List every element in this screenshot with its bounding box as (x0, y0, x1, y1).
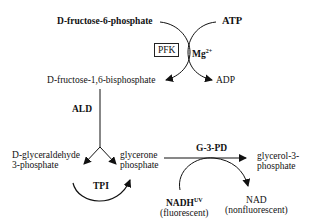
fructose-bisphosphate-label: D-fructose-1,6-bisphosphate (47, 75, 155, 85)
pathway-arrows (0, 0, 318, 224)
atp-label: ATP (222, 16, 242, 26)
glyceraldehyde-3-phosphate-label: D-glyceraldehyde3-phosphate (12, 150, 80, 170)
nad-label: NAD(nonfluorescent) (225, 195, 288, 215)
tpi-enzyme-label: TPI (93, 181, 109, 191)
ald-enzyme-label: ALD (72, 104, 92, 114)
glycerone-phosphate-label: glyceronephosphate (120, 150, 159, 170)
g3pd-enzyme-label: G-3-PD (196, 143, 227, 153)
adp-label: ADP (216, 75, 235, 85)
fructose-6-phosphate-label: D-fructose-6-phosphate (57, 16, 153, 26)
nadh-label: NADHUV(fluorescent) (160, 195, 209, 218)
mg-cofactor-label: Mg2+ (192, 46, 212, 59)
glycerol-3-phosphate-label: glycerol-3-phosphate (257, 151, 299, 171)
pfk-enzyme-box: PFK (154, 43, 179, 57)
